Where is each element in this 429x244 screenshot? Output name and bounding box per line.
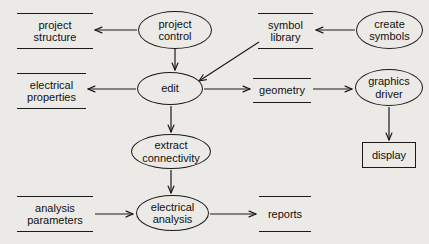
node-label: symbol library — [268, 19, 303, 44]
edge-library_to_edit — [199, 42, 259, 81]
node-project-control: project control — [138, 11, 212, 49]
node-electrical-properties: electrical properties — [17, 73, 86, 109]
node-label: analysis parameters — [27, 202, 83, 227]
node-label: extract connectivity — [142, 139, 199, 164]
node-label: graphics driver — [368, 75, 410, 100]
node-reports: reports — [259, 196, 311, 232]
node-display: display — [362, 142, 416, 168]
node-electrical-analysis: electrical analysis — [136, 195, 209, 231]
node-symbol-library: symbol library — [258, 13, 313, 49]
node-label: electrical properties — [27, 79, 76, 104]
node-label: electrical analysis — [151, 201, 194, 226]
data-flow-diagram: project structureproject controlsymbol l… — [0, 0, 429, 244]
node-label: create symbols — [369, 18, 409, 43]
node-label: edit — [161, 82, 179, 94]
node-edit: edit — [137, 72, 203, 105]
node-project-structure: project structure — [17, 13, 93, 49]
node-label: display — [372, 149, 406, 161]
node-analysis-parameters: analysis parameters — [17, 196, 93, 232]
node-geometry: geometry — [253, 78, 311, 103]
node-label: geometry — [259, 84, 305, 96]
node-label: reports — [268, 208, 302, 220]
node-label: project control — [158, 18, 191, 43]
node-graphics-driver: graphics driver — [355, 69, 423, 106]
node-create-symbols: create symbols — [356, 11, 423, 49]
node-extract-connectivity: extract connectivity — [131, 134, 211, 169]
node-label: project structure — [34, 19, 77, 44]
